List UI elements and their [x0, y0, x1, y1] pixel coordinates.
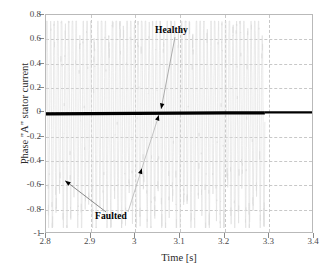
- x-tick-label: 2.9: [84, 236, 95, 246]
- series-faulted: [46, 21, 265, 228]
- y-tick-label: 0.8: [30, 9, 41, 19]
- y-tick-label: -0.2: [27, 131, 41, 141]
- y-tick-label: 0.2: [30, 82, 41, 92]
- series-healthy: [46, 113, 265, 114]
- x-tick-label: 3.2: [218, 236, 229, 246]
- x-tick-label: 3.1: [173, 236, 184, 246]
- y-tick-label: 0.4: [30, 58, 41, 68]
- figure-container: Phase "A" stator current Time [s] 0.80.6…: [0, 0, 330, 275]
- annotation-label-healthy: Healthy: [155, 25, 188, 35]
- x-tick-label: 3.3: [263, 236, 274, 246]
- y-tick-label: -0.6: [27, 179, 41, 189]
- annotation-label-faulted: Faulted: [95, 211, 127, 221]
- x-tick-label: 2.8: [39, 236, 50, 246]
- y-axis-title: Phase "A" stator current: [19, 24, 30, 204]
- x-tick-label: 3.4: [307, 236, 318, 246]
- plot-area: [45, 14, 313, 233]
- y-tick-label: -0.8: [27, 204, 41, 214]
- x-axis-title: Time [s]: [45, 252, 313, 263]
- y-tick-label: -0.4: [27, 155, 41, 165]
- y-tick-label: 0.6: [30, 33, 41, 43]
- series-layer: [46, 15, 313, 233]
- y-tick-label: 0: [37, 106, 42, 116]
- x-tick-label: 3: [132, 236, 137, 246]
